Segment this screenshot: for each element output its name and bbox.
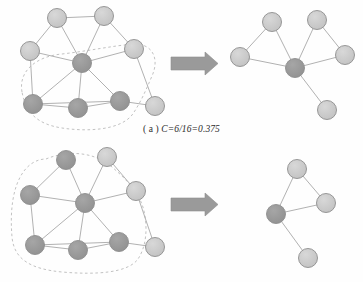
transform-arrow-icon xyxy=(171,52,218,75)
graph-node[interactable] xyxy=(267,205,286,224)
panel-a-label: ( a ) xyxy=(143,124,159,134)
graph-node[interactable] xyxy=(146,97,165,116)
panel-a: ( a ) C=6/16=0.375 xyxy=(0,0,363,141)
edges-original-a xyxy=(30,16,155,108)
figure-container: ( a ) C=6/16=0.375 xyxy=(0,0,363,282)
graph-node[interactable] xyxy=(73,54,92,73)
graph-node[interactable] xyxy=(48,9,67,28)
graph-node[interactable] xyxy=(288,160,307,179)
graph-node[interactable] xyxy=(21,42,40,61)
graph-node[interactable] xyxy=(317,194,336,213)
graph-node[interactable] xyxy=(231,48,250,67)
graph-node[interactable] xyxy=(76,194,95,213)
transform-arrow-icon xyxy=(171,193,218,216)
panel-b: ( b ) C=3/21=0.143 xyxy=(0,141,363,282)
panel-a-formula: C=6/16=0.375 xyxy=(161,124,220,134)
nodes-original-a xyxy=(21,7,165,118)
nodes-reduced-a xyxy=(231,11,355,120)
graph-node[interactable] xyxy=(125,40,144,59)
panel-a-caption: ( a ) C=6/16=0.375 xyxy=(0,124,363,134)
graph-node[interactable] xyxy=(24,95,43,114)
graph-node[interactable] xyxy=(69,241,88,260)
graph-node[interactable] xyxy=(263,13,282,32)
graph-node[interactable] xyxy=(299,249,318,268)
graph-node[interactable] xyxy=(57,151,76,170)
graph-node[interactable] xyxy=(110,233,129,252)
graph-node[interactable] xyxy=(95,7,114,26)
graph-node[interactable] xyxy=(111,92,130,111)
graph-node[interactable] xyxy=(318,101,337,120)
graph-node[interactable] xyxy=(127,182,146,201)
graph-node[interactable] xyxy=(21,186,40,205)
graph-node[interactable] xyxy=(308,11,327,30)
graph-node[interactable] xyxy=(69,99,88,118)
graph-node[interactable] xyxy=(98,148,117,167)
graph-node[interactable] xyxy=(146,238,165,257)
panel-b-graphics xyxy=(0,141,363,282)
graph-node[interactable] xyxy=(286,59,305,78)
graph-node[interactable] xyxy=(26,236,45,255)
nodes-reduced-b xyxy=(267,160,336,268)
graph-node[interactable] xyxy=(336,46,355,65)
panel-a-graphics xyxy=(0,0,363,141)
